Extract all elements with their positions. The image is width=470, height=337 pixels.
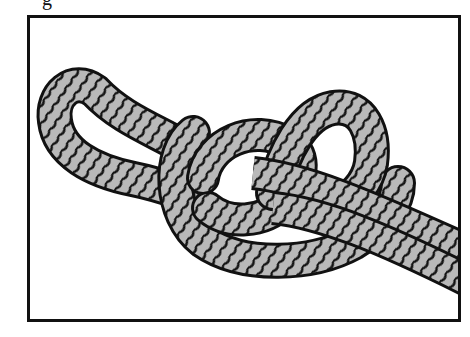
- figure-caption-fragment: g: [42, 0, 52, 8]
- figure-frame: [27, 15, 461, 322]
- rope-knot-illustration: [30, 18, 458, 319]
